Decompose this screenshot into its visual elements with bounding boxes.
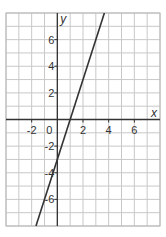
y-axis-label: y (59, 12, 67, 26)
coordinate-plane: x y 0 -2 2 4 6 6 4 2 -2 -4 -6 (0, 0, 166, 237)
x-tick-label: 6 (131, 124, 137, 136)
x-tick-label: 4 (106, 124, 112, 136)
y-tick-label: 2 (48, 87, 54, 99)
x-axis-label: x (150, 106, 158, 120)
y-tick-label: 4 (48, 60, 54, 72)
x-tick-label: 2 (80, 124, 86, 136)
origin-label: 0 (46, 124, 52, 136)
y-tick-label: -4 (45, 167, 55, 179)
y-tick-label: -6 (45, 193, 55, 205)
y-tick-label: 6 (48, 34, 54, 46)
x-tick-label: -2 (27, 124, 37, 136)
y-tick-label: -2 (45, 140, 55, 152)
